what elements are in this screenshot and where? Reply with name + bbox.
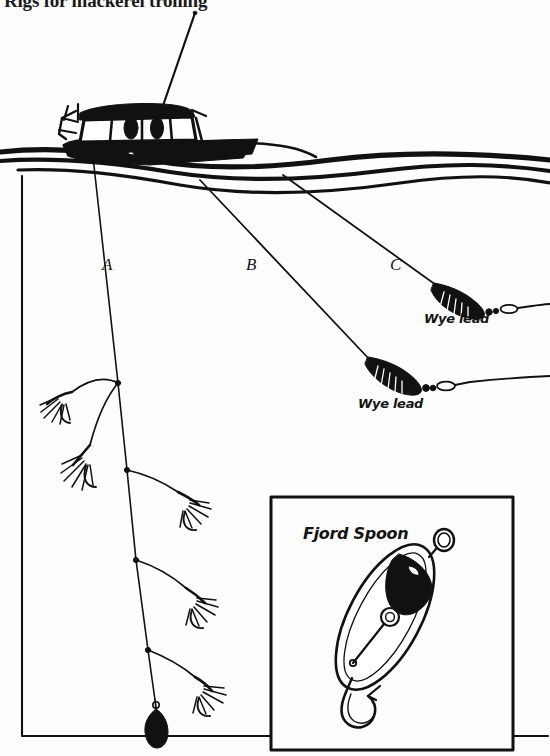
illustration-page: Rigs for mackerel trolling bbox=[0, 0, 550, 756]
feather-lure bbox=[193, 677, 226, 716]
feather-lure bbox=[186, 588, 218, 628]
trolling-boat bbox=[59, 11, 316, 165]
fjord-spoon-title: Fjord Spoon bbox=[303, 524, 408, 543]
diagram-artwork bbox=[0, 0, 550, 756]
terminal-sinker bbox=[145, 700, 168, 748]
rig-c bbox=[283, 175, 550, 319]
rig-label-c: C bbox=[390, 255, 401, 275]
wye-lead-label-b: Wye lead bbox=[358, 396, 423, 411]
wye-lead-label-c: Wye lead bbox=[424, 311, 489, 326]
feather-lure bbox=[178, 492, 211, 530]
rig-b bbox=[200, 180, 550, 395]
feather-lure bbox=[61, 445, 96, 490]
rig-label-a: A bbox=[102, 255, 112, 275]
rig-a bbox=[40, 157, 226, 748]
feather-lure bbox=[40, 392, 72, 424]
rig-label-b: B bbox=[246, 255, 256, 275]
wye-lead-weight bbox=[365, 357, 470, 395]
